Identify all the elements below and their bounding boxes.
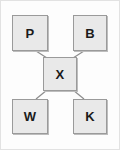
edge-x-to-w (36, 90, 47, 99)
edge-x-to-k (73, 90, 84, 99)
node-k-label: K (85, 110, 95, 123)
node-k[interactable]: K (73, 99, 107, 134)
node-b[interactable]: B (73, 15, 107, 51)
node-w-label: W (24, 110, 36, 123)
node-w[interactable]: W (12, 99, 48, 134)
node-b-label: B (85, 27, 95, 40)
node-p-label: P (26, 27, 35, 40)
node-x-label: X (56, 68, 65, 81)
diagram-canvas: P B X W K (0, 0, 120, 150)
node-x[interactable]: X (43, 57, 77, 91)
node-p[interactable]: P (12, 15, 48, 51)
